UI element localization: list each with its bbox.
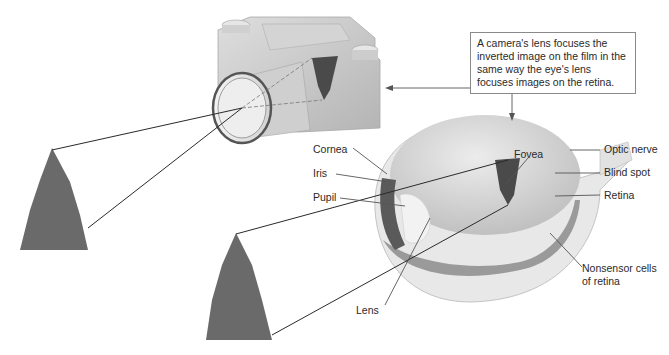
label-fovea: Fovea xyxy=(514,148,543,161)
label-nonsensor-line2: of retina xyxy=(582,275,657,288)
label-nonsensor-cells: Nonsensor cells of retina xyxy=(582,262,657,288)
label-pupil: Pupil xyxy=(313,191,336,204)
callout-box: A camera's lens focuses the inverted ima… xyxy=(470,32,636,94)
tree-icon xyxy=(206,233,272,340)
label-blind-spot: Blind spot xyxy=(604,166,650,179)
label-nonsensor-line1: Nonsensor cells xyxy=(582,262,657,275)
tree-icon xyxy=(20,148,88,250)
label-optic-nerve: Optic nerve xyxy=(604,143,658,156)
camera-icon xyxy=(213,17,380,143)
label-lens: Lens xyxy=(356,304,379,317)
label-cornea: Cornea xyxy=(313,143,347,156)
label-iris: Iris xyxy=(313,167,327,180)
label-retina: Retina xyxy=(604,189,634,202)
